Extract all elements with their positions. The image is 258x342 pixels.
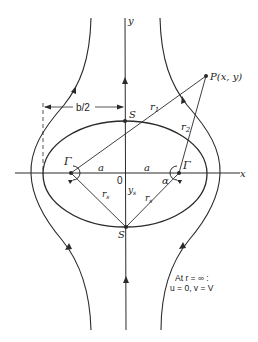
vortex-right-gamma: Γ (182, 159, 191, 172)
boundary-condition-line1: At r = ∞ : (175, 273, 209, 283)
left-streamline-arrow-upper (71, 86, 76, 94)
vortex-left-gamma: Γ (63, 155, 72, 168)
ys-label: ys (127, 185, 136, 196)
vortex-pair-diagram: x y b/2 Γ Γ a a 0 S S P(x, y) r1 r2 rs r… (0, 0, 258, 342)
y-axis-label: y (127, 15, 134, 26)
r2-label: r2 (181, 121, 191, 134)
b-half-label: b/2 (76, 102, 90, 113)
distance-a-left: a (98, 162, 104, 173)
b-half-arrow-left (44, 105, 51, 110)
distance-a-right: a (144, 162, 150, 173)
x-axis-label: x (240, 168, 246, 179)
r1-label: r1 (150, 101, 159, 114)
stagnation-bottom-label: S (118, 229, 125, 240)
y-axis-arrow-top (122, 77, 128, 84)
alpha-label: α (162, 175, 169, 186)
b-half-arrow-right (117, 105, 124, 110)
stagnation-top-label: S (129, 109, 136, 120)
origin-label: 0 (117, 175, 123, 186)
left-streamline-arrow-lower (65, 243, 72, 250)
left-outer-streamline (31, 18, 91, 330)
point-P-label: P(x, y) (209, 71, 242, 82)
y-axis-arrow-bottom (123, 276, 129, 283)
rs-left-label: rs (102, 189, 109, 200)
stagnation-point-top (123, 119, 127, 123)
rs-right-line (126, 173, 179, 227)
boundary-condition-line2: u = 0, v = V (170, 283, 214, 293)
rs-right-label: rs (145, 193, 152, 204)
y-axis (125, 18, 126, 330)
